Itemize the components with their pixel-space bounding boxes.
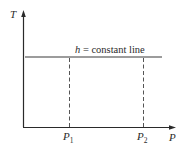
p1-label: P1	[62, 130, 74, 145]
t-p-diagram: T P h = constant line P1 P2	[0, 0, 193, 146]
constant-line-text: = constant line	[80, 44, 145, 55]
x-axis-label: P	[168, 131, 176, 143]
y-axis-arrow-icon	[21, 10, 26, 17]
y-axis-label: T	[10, 8, 17, 20]
constant-enthalpy-line: h = constant line	[25, 44, 162, 57]
x-axis-arrow-icon	[169, 125, 176, 130]
pressure-markers: P1 P2	[62, 58, 148, 145]
p2-label: P2	[136, 130, 148, 145]
x-axis: P	[23, 125, 176, 143]
y-axis: T	[10, 8, 26, 127]
constant-line-label: h = constant line	[75, 44, 145, 55]
